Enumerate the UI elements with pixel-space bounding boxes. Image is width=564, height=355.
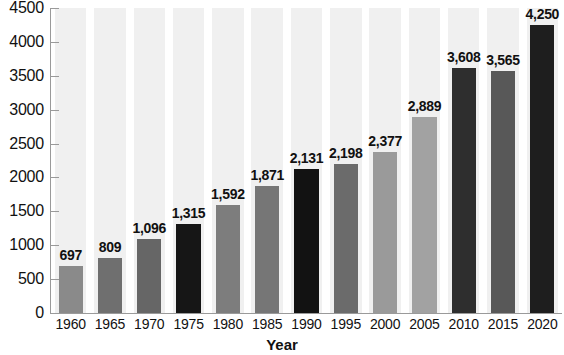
bar-value-label: 4,250 bbox=[526, 6, 560, 22]
x-tick-label: 1995 bbox=[331, 316, 361, 332]
bar[interactable] bbox=[491, 71, 515, 313]
y-tick-mark bbox=[50, 8, 59, 9]
bar-chart: 050010001500200025003000350040004500 697… bbox=[0, 0, 564, 355]
bar[interactable] bbox=[59, 266, 83, 313]
bar[interactable] bbox=[530, 25, 554, 313]
y-tick-mark bbox=[50, 110, 59, 111]
y-tick-label: 500 bbox=[18, 270, 44, 288]
y-tick-mark bbox=[50, 245, 59, 246]
x-tick-label: 2015 bbox=[488, 316, 518, 332]
y-tick-label: 4500 bbox=[9, 0, 44, 17]
bar-value-label: 809 bbox=[99, 239, 121, 255]
y-tick-label: 1500 bbox=[9, 202, 44, 220]
bar-value-label: 2,198 bbox=[329, 145, 363, 161]
bar-value-label: 1,315 bbox=[172, 205, 206, 221]
x-tick-label: 1965 bbox=[95, 316, 125, 332]
y-tick-mark bbox=[50, 177, 59, 178]
x-axis-line bbox=[50, 313, 562, 314]
y-tick-mark bbox=[50, 76, 59, 77]
bar-value-label: 1,871 bbox=[250, 167, 284, 183]
x-tick-label: 2010 bbox=[449, 316, 479, 332]
x-tick-label: 1985 bbox=[252, 316, 282, 332]
bar-value-label: 697 bbox=[59, 247, 81, 263]
y-tick-mark bbox=[50, 144, 59, 145]
y-tick-mark bbox=[50, 279, 59, 280]
bar[interactable] bbox=[452, 68, 476, 313]
y-tick-label: 1000 bbox=[9, 236, 44, 254]
y-tick-label: 0 bbox=[35, 304, 44, 322]
bar-value-label: 3,565 bbox=[486, 52, 520, 68]
x-tick-label: 1980 bbox=[213, 316, 243, 332]
y-tick-mark bbox=[50, 42, 59, 43]
plot-area: 6978091,0961,3151,5921,8712,1312,1982,37… bbox=[51, 8, 562, 313]
bar[interactable] bbox=[294, 169, 318, 313]
x-axis-labels: 1960196519701975198019851990199520002005… bbox=[51, 316, 562, 336]
bar[interactable] bbox=[334, 164, 358, 313]
y-tick-label: 4000 bbox=[9, 33, 44, 51]
bar[interactable] bbox=[216, 205, 240, 313]
y-tick-label: 2000 bbox=[9, 168, 44, 186]
bar[interactable] bbox=[373, 152, 397, 313]
x-tick-label: 1970 bbox=[134, 316, 164, 332]
y-axis-labels: 050010001500200025003000350040004500 bbox=[0, 0, 46, 325]
x-tick-label: 1960 bbox=[55, 316, 85, 332]
bar[interactable] bbox=[137, 239, 161, 313]
x-tick-label: 2020 bbox=[527, 316, 557, 332]
y-tick-label: 2500 bbox=[9, 135, 44, 153]
bar-value-label: 2,131 bbox=[290, 150, 324, 166]
x-axis-title: Year bbox=[0, 336, 564, 353]
bar[interactable] bbox=[176, 224, 200, 313]
y-tick-mark bbox=[50, 211, 59, 212]
bar[interactable] bbox=[98, 258, 122, 313]
bar-value-label: 3,608 bbox=[447, 49, 481, 65]
y-tick-label: 3000 bbox=[9, 101, 44, 119]
bar-value-label: 1,096 bbox=[132, 220, 166, 236]
bar[interactable] bbox=[255, 186, 279, 313]
bar-value-label: 2,889 bbox=[408, 98, 442, 114]
y-tick-label: 3500 bbox=[9, 67, 44, 85]
x-tick-label: 1975 bbox=[173, 316, 203, 332]
x-tick-label: 2000 bbox=[370, 316, 400, 332]
bar-value-label: 1,592 bbox=[211, 186, 245, 202]
x-tick-label: 1990 bbox=[291, 316, 321, 332]
x-tick-label: 2005 bbox=[409, 316, 439, 332]
bar[interactable] bbox=[412, 117, 436, 313]
bar-value-label: 2,377 bbox=[368, 133, 402, 149]
